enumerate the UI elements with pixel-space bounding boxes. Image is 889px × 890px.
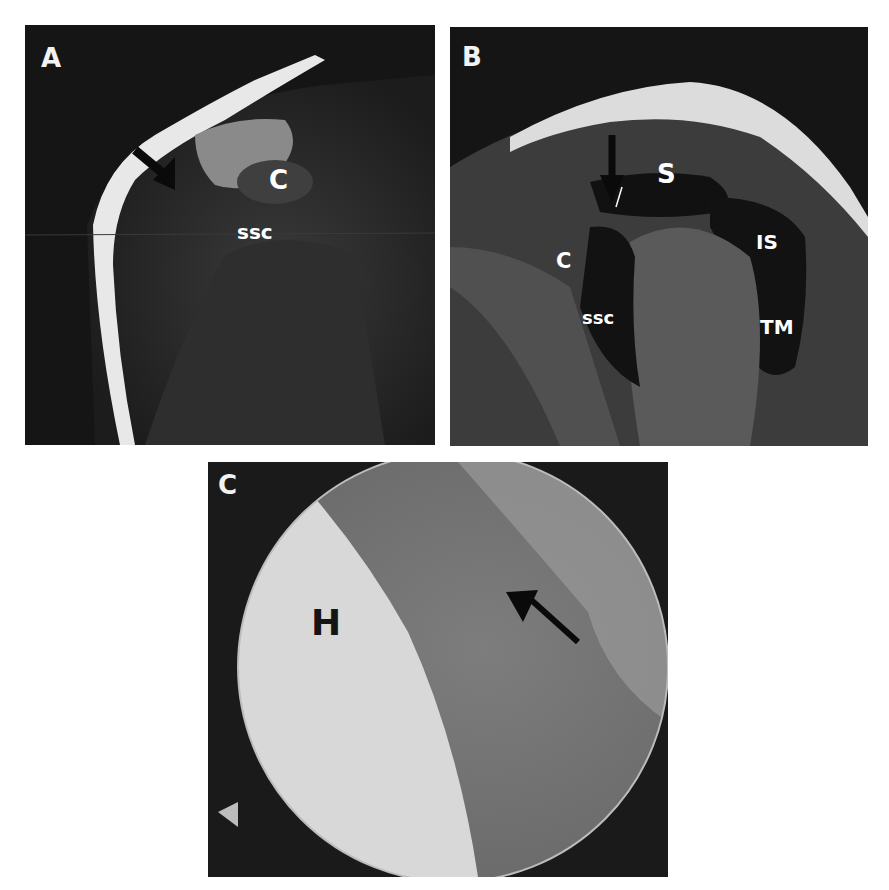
panel-c-arthroscopy: C H [208, 462, 668, 877]
arrow-icon [450, 27, 868, 446]
panel-a-mri: A C ssc [25, 25, 435, 445]
panel-b-mri: B S IS C ssc TM [450, 27, 868, 446]
arrow-icon [208, 462, 668, 877]
arrow-icon [25, 25, 435, 445]
